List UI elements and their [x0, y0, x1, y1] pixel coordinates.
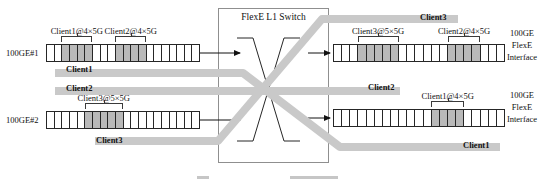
allocation-brace: [358, 36, 399, 42]
caption-line: Interface: [500, 113, 544, 125]
allocation-brace: [431, 101, 464, 107]
slot-calendar: [46, 111, 200, 129]
allocation-label: Client1@4×5G: [51, 26, 103, 36]
allocation-brace: [61, 36, 92, 42]
allocation-label: Client3@5×5G: [352, 26, 404, 36]
caption-line: 100GE: [500, 27, 544, 39]
flexe-l1-switching-diagram: FlexE L1 Switch 100GE#1 100GE#2 Cli: [0, 0, 545, 180]
client2-label-left: Client2: [66, 84, 92, 93]
allocation-label: Client1@4×5G: [422, 91, 474, 101]
slot-cell-free: [191, 111, 200, 129]
slot-bar-flexe-interface-2: Client1@4×5G: [333, 109, 505, 127]
client3-label-right: Client3: [420, 13, 446, 22]
client3-label-left: Client3: [96, 136, 122, 145]
client1-label-left: Client1: [66, 65, 92, 74]
port-label-100ge1: 100GE#1: [6, 48, 39, 58]
caption-line: FlexE: [500, 101, 544, 113]
port-label-100ge2: 100GE#2: [6, 115, 39, 125]
allocation-label: Client2@4×5G: [438, 26, 490, 36]
slot-calendar: [333, 44, 505, 62]
allocation-brace: [85, 103, 124, 109]
flexe-interface1-caption: 100GE FlexE Interface: [500, 27, 544, 63]
allocation-label: Client3@5×5G: [78, 93, 130, 103]
slot-bar-100ge1: Client1@4×5GClient2@4×5G: [46, 44, 200, 62]
flexe-interface2-caption: 100GE FlexE Interface: [500, 89, 544, 125]
client1-label-right: Client1: [463, 141, 489, 150]
slot-bar-100ge2: Client3@5×5G: [46, 111, 200, 129]
slot-calendar: [46, 44, 200, 62]
slot-calendar: [333, 109, 505, 127]
client2-label-right: Client2: [368, 83, 394, 92]
caption-line: FlexE: [500, 39, 544, 51]
slot-bar-flexe-interface-1: Client3@5×5GClient2@4×5G: [333, 44, 505, 62]
allocation-brace: [448, 36, 481, 42]
caption-line: 100GE: [500, 89, 544, 101]
allocation-label: Client2@4×5G: [105, 26, 157, 36]
allocation-brace: [115, 36, 146, 42]
caption-line: Interface: [500, 51, 544, 63]
slot-cell-free: [191, 44, 200, 62]
